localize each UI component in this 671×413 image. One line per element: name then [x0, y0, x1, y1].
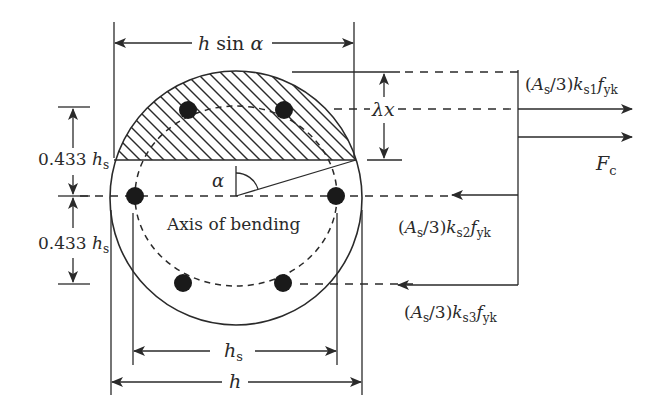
top-width-label: h sin α: [198, 32, 263, 54]
bar-bottom-right: [274, 274, 292, 292]
circular-section-diagram: h sin α λx 0.433 hs 0.433 hs α Axis of b…: [0, 0, 671, 413]
bar-top-left: [179, 101, 197, 119]
bar-mid-left: [126, 187, 144, 205]
lower-offset-label: 0.433 hs: [38, 233, 109, 256]
alpha-label: α: [212, 170, 224, 191]
bar-top-right: [275, 101, 293, 119]
fc-label: Fc: [595, 152, 616, 178]
hs-label: hs: [224, 339, 243, 364]
force2-label: (As/3)ks2fyk: [398, 217, 491, 240]
bar-bottom-left: [174, 274, 192, 292]
force3-label: (As/3)ks3fyk: [404, 302, 497, 325]
axis-of-bending-label: Axis of bending: [166, 214, 301, 234]
upper-offset-label: 0.433 hs: [38, 149, 109, 172]
h-label: h: [229, 370, 241, 392]
force1-label: (As/3)ks1fyk: [525, 74, 618, 97]
alpha-arc: [236, 173, 258, 189]
lambda-x-label: λx: [371, 98, 395, 120]
bar-mid-right: [327, 187, 345, 205]
section-outline: [110, 71, 362, 325]
